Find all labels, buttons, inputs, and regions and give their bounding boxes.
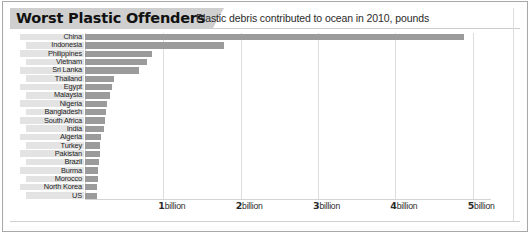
bar-row	[85, 33, 491, 41]
bar	[85, 159, 99, 165]
bar-row	[85, 183, 491, 191]
bar	[85, 101, 107, 107]
page-title: Worst Plastic Offenders	[16, 8, 205, 28]
bar	[85, 84, 112, 90]
bar	[85, 134, 101, 140]
tick-unit: billion	[397, 201, 418, 211]
bar-row	[85, 58, 491, 66]
bar	[85, 34, 464, 40]
category-label-row: US	[8, 192, 84, 200]
bar-row	[85, 125, 491, 133]
axis-tick-label: 5billion	[468, 200, 495, 211]
bar	[85, 76, 114, 82]
value-axis: 1billion2billion3billion4billion5billion	[85, 200, 491, 216]
bar	[85, 51, 152, 57]
tick-unit: billion	[242, 201, 263, 211]
bar-row	[85, 133, 491, 141]
bar-row	[85, 150, 491, 158]
bar-row	[85, 91, 491, 99]
bar-row	[85, 100, 491, 108]
bar-row	[85, 158, 491, 166]
header-divider	[10, 28, 520, 29]
bar	[85, 184, 97, 190]
axis-tick-label: 4billion	[390, 200, 417, 211]
bar-row	[85, 175, 491, 183]
bar	[85, 67, 139, 73]
bar	[85, 176, 98, 182]
category-label: US	[72, 191, 82, 200]
category-axis-labels: ChinaIndonesiaPhilippinesVietnamSri Lank…	[8, 33, 84, 200]
tick-unit: billion	[474, 201, 495, 211]
bar	[85, 151, 100, 157]
chart-figure: Worst Plastic Offenders Plastic debris c…	[0, 0, 532, 235]
bar-row	[85, 41, 491, 49]
bar	[85, 126, 104, 132]
bar	[85, 92, 110, 98]
bar	[85, 59, 147, 65]
bar	[85, 142, 100, 148]
bar	[85, 117, 105, 123]
bar-row	[85, 83, 491, 91]
bar-row	[85, 75, 491, 83]
bar	[85, 42, 224, 48]
axis-tick-label: 3billion	[313, 200, 340, 211]
bar	[85, 109, 106, 115]
bar-series	[85, 33, 491, 200]
right-edge-rule	[513, 8, 514, 221]
footer-divider	[10, 221, 520, 222]
bar-row	[85, 142, 491, 150]
bar-row	[85, 117, 491, 125]
axis-tick-label: 1billion	[158, 200, 185, 211]
bar-row	[85, 66, 491, 74]
axis-tick-label: 2billion	[236, 200, 263, 211]
bar-row	[85, 50, 491, 58]
bar-row	[85, 167, 491, 175]
chart-subtitle: Plastic debris contributed to ocean in 2…	[196, 10, 429, 26]
tick-unit: billion	[165, 201, 186, 211]
bar-row	[85, 108, 491, 116]
bar	[85, 193, 97, 199]
chart-header: Worst Plastic Offenders Plastic debris c…	[10, 8, 520, 28]
title-plate: Worst Plastic Offenders	[10, 8, 213, 28]
bar	[85, 167, 98, 173]
tick-unit: billion	[319, 201, 340, 211]
